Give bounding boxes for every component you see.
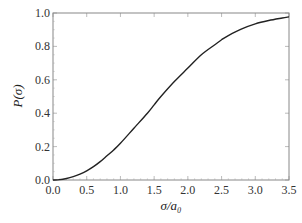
x-tick-label: 0.5 [79,183,94,197]
y-tick-label: 0.8 [35,39,50,53]
x-tick-label: 2.0 [180,183,195,197]
data-line [53,17,289,180]
y-tick-label: 1.0 [35,6,50,20]
y-tick-label: 0.2 [35,140,50,154]
y-tick-labels: 0.00.20.40.60.81.0 [35,6,50,187]
axis-ticks [53,13,289,180]
y-tick-label: 0.6 [35,73,50,87]
x-axis-label: σ/a₀ [160,198,181,213]
y-tick-label: 0.4 [35,106,50,120]
chart: 0.00.51.01.52.02.53.03.5 0.00.20.40.60.8… [0,0,302,223]
x-tick-label: 1.0 [113,183,128,197]
y-tick-label: 0.0 [35,173,50,187]
y-axis-label: P(σ) [10,84,25,108]
x-tick-label: 1.5 [147,183,162,197]
x-tick-labels: 0.00.51.01.52.02.53.03.5 [46,183,297,197]
x-tick-label: 3.0 [248,183,263,197]
plot-frame [53,13,289,180]
x-tick-label: 3.5 [282,183,297,197]
x-tick-label: 2.5 [214,183,229,197]
